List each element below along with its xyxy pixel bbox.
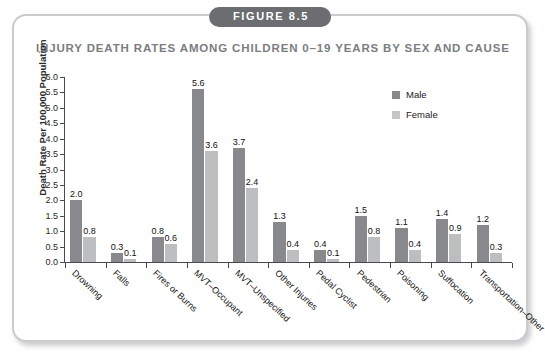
bar-value-label: 1.1	[392, 217, 410, 227]
bar-value-label: 0.3	[487, 242, 505, 252]
x-axis-category-labels: DrowningFallsFires or BurnsMVT–OccupantM…	[65, 268, 525, 344]
bar-male	[233, 148, 245, 262]
bar-value-label: 0.8	[365, 226, 383, 236]
legend-swatch-female-icon	[392, 111, 400, 119]
bar-value-label: 1.5	[352, 205, 370, 215]
bar-value-label: 2.4	[243, 177, 261, 187]
legend-label-male: Male	[406, 89, 427, 100]
bar-value-label: 1.4	[433, 208, 451, 218]
bar-group: 1.30.4	[268, 77, 309, 262]
x-axis-category-label: Falls	[111, 268, 132, 288]
legend-item-male: Male	[392, 89, 438, 100]
y-axis-tick-label: 2.0	[32, 195, 58, 205]
bar-female	[490, 253, 502, 262]
bar-value-label: 0.1	[121, 248, 139, 258]
x-axis-category-label: Pedal Cyclist	[314, 268, 359, 311]
bar-female	[368, 237, 380, 262]
x-axis-category-label: Poisoning	[395, 268, 431, 302]
bar-group: 1.50.8	[349, 77, 390, 262]
x-axis-category-label: Suffocation	[436, 268, 476, 306]
bar-series-layer: 2.00.80.30.10.80.65.63.63.72.41.30.40.40…	[65, 77, 512, 262]
bar-group: 0.80.6	[146, 77, 187, 262]
legend-label-female: Female	[406, 109, 438, 120]
y-axis-tick-label: 5.5	[32, 87, 58, 97]
bar-group: 3.72.4	[228, 77, 269, 262]
chart-legend: Male Female	[392, 89, 438, 129]
bar-value-label: 3.7	[230, 137, 248, 147]
bar-group: 1.20.3	[471, 77, 512, 262]
y-axis-tick-labels: 0.00.51.01.52.02.53.03.54.04.55.05.56.0	[32, 16, 58, 344]
bar-group: 0.30.1	[106, 77, 147, 262]
y-axis-tick-label: 3.5	[32, 149, 58, 159]
bar-group: 5.63.6	[187, 77, 228, 262]
legend-swatch-male-icon	[392, 91, 400, 99]
bar-female	[449, 234, 461, 262]
bar-female	[246, 188, 258, 262]
x-axis-category-label: Pedestrian	[355, 268, 393, 305]
y-axis-tick-label: 5.0	[32, 103, 58, 113]
bar-value-label: 0.4	[284, 239, 302, 249]
x-axis-line	[64, 262, 512, 263]
bar-female	[409, 250, 421, 262]
bar-value-label: 0.8	[80, 226, 98, 236]
y-axis-tick-label: 3.0	[32, 165, 58, 175]
chart-plot-area: Death Rate Per 100,000 Population 0.00.5…	[14, 16, 530, 344]
bar-value-label: 0.4	[406, 239, 424, 249]
legend-item-female: Female	[392, 109, 438, 120]
y-axis-tick-label: 2.5	[32, 180, 58, 190]
y-axis-tick-label: 0.5	[32, 242, 58, 252]
bar-value-label: 1.2	[474, 214, 492, 224]
bar-female	[287, 250, 299, 262]
bar-value-label: 2.0	[67, 189, 85, 199]
bar-female	[327, 259, 339, 262]
bar-value-label: 5.6	[189, 78, 207, 88]
bar-female	[165, 244, 177, 263]
bar-value-label: 0.1	[324, 248, 342, 258]
bar-male	[192, 89, 204, 262]
y-axis-tick-label: 1.0	[32, 226, 58, 236]
x-axis-category-label: Drowning	[70, 268, 105, 301]
bar-female	[205, 151, 217, 262]
bar-female	[83, 237, 95, 262]
figure-card: FIGURE 8.5 INJURY DEATH RATES AMONG CHIL…	[12, 14, 528, 342]
y-axis-tick-label: 4.0	[32, 134, 58, 144]
y-axis-tick-label: 0.0	[32, 257, 58, 267]
bar-female	[124, 259, 136, 262]
bar-value-label: 1.3	[270, 211, 288, 221]
x-axis-category-label: Transportation–Other	[477, 268, 545, 333]
bar-value-label: 0.6	[162, 233, 180, 243]
y-axis-tick-label: 6.0	[32, 72, 58, 82]
bar-group: 2.00.8	[65, 77, 106, 262]
bar-male	[355, 216, 367, 262]
bar-value-label: 3.6	[202, 140, 220, 150]
y-axis-tick-label: 1.5	[32, 211, 58, 221]
bar-value-label: 0.9	[446, 223, 464, 233]
bar-group: 0.40.1	[309, 77, 350, 262]
y-axis-tick-label: 4.5	[32, 118, 58, 128]
